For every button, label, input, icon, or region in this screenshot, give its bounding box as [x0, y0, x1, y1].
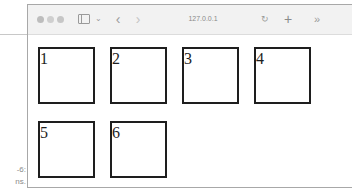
close-window-button[interactable]: [37, 16, 44, 23]
forward-button[interactable]: ›: [133, 12, 143, 26]
overflow-menu-icon[interactable]: »: [311, 12, 323, 26]
caption-line-2: ns.: [0, 177, 26, 187]
caption-line-1: -6:: [0, 165, 26, 175]
sidebar-toggle-icon[interactable]: [78, 14, 90, 24]
browser-toolbar: ⌄ ‹ › 127.0.0.1 ↻ + »: [28, 5, 352, 35]
box-3: 3: [182, 47, 239, 104]
page: -6: ns. ⌄ ‹ › 127.0.0.1 ↻ + » 1 2: [0, 0, 352, 194]
address-bar[interactable]: 127.0.0.1: [173, 11, 233, 27]
divider: [0, 34, 27, 35]
box-5: 5: [38, 121, 95, 178]
box-label: 4: [256, 50, 264, 67]
reload-icon[interactable]: ↻: [260, 12, 270, 26]
url-text: 127.0.0.1: [188, 15, 217, 22]
browser-window: ⌄ ‹ › 127.0.0.1 ↻ + » 1 2 3 4 5: [27, 4, 352, 188]
box-label: 6: [112, 124, 120, 141]
chevron-down-icon[interactable]: ⌄: [94, 12, 102, 26]
box-6: 6: [110, 121, 167, 178]
box-label: 3: [184, 50, 192, 67]
box-1: 1: [38, 47, 95, 104]
minimize-window-button[interactable]: [47, 16, 54, 23]
back-button[interactable]: ‹: [113, 12, 123, 26]
page-content: 1 2 3 4 5 6: [28, 35, 352, 188]
box-4: 4: [254, 47, 311, 104]
box-label: 5: [40, 124, 48, 141]
zoom-window-button[interactable]: [57, 16, 64, 23]
new-tab-button[interactable]: +: [282, 12, 294, 26]
box-2: 2: [110, 47, 167, 104]
box-label: 1: [40, 50, 48, 67]
box-label: 2: [112, 50, 120, 67]
